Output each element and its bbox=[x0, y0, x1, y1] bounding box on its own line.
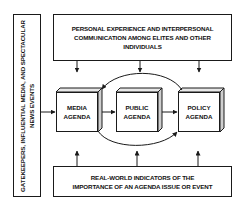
real-world-line-1: REAL-WORLD INDICATORS OF THE bbox=[73, 173, 213, 182]
gatekeepers-label: GATEKEEPERS, INFLUENTIAL MEDIA, AND SPEC… bbox=[18, 16, 36, 196]
public-agenda-line-1: PUBLIC bbox=[125, 103, 148, 112]
public-agenda-line-2: AGENDA bbox=[124, 112, 151, 121]
real-world-indicators-box: REAL-WORLD INDICATORS OF THE IMPORTANCE … bbox=[53, 166, 232, 197]
public-agenda-box: PUBLIC AGENDA bbox=[116, 92, 158, 132]
arc-arrow-icon bbox=[98, 131, 177, 145]
public-agenda-box-side bbox=[158, 88, 162, 132]
media-agenda-line-1: MEDIA bbox=[67, 103, 87, 112]
media-agenda-line-2: AGENDA bbox=[64, 112, 91, 121]
personal-experience-box: PERSONAL EXPERIENCE AND INTERPERSONAL CO… bbox=[53, 14, 232, 61]
media-agenda-box: MEDIA AGENDA bbox=[56, 92, 98, 132]
policy-agenda-line-1: POLICY bbox=[187, 103, 210, 112]
personal-experience-line-1: PERSONAL EXPERIENCE AND INTERPERSONAL bbox=[72, 24, 214, 33]
personal-experience-line-2: COMMUNICATION AMONG ELITES AND OTHER bbox=[72, 33, 214, 42]
arc-arrow-icon bbox=[102, 73, 182, 90]
policy-agenda-line-2: AGENDA bbox=[186, 112, 213, 121]
media-agenda-box-side bbox=[98, 88, 102, 132]
personal-experience-line-3: INDIVIDUALS bbox=[72, 42, 214, 51]
gatekeepers-box: GATEKEEPERS, INFLUENTIAL MEDIA, AND SPEC… bbox=[13, 14, 41, 197]
real-world-line-2: IMPORTANCE OF AN AGENDA ISSUE OR EVENT bbox=[73, 182, 213, 191]
policy-agenda-box: POLICY AGENDA bbox=[178, 92, 220, 132]
policy-agenda-box-side bbox=[220, 88, 224, 132]
